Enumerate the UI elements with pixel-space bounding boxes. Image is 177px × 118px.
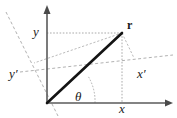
theta-arc — [88, 76, 95, 103]
theta-angle-label: θ — [75, 90, 81, 103]
x-axis-arrowhead — [165, 100, 173, 107]
r-to-xprime-projection-line — [122, 33, 134, 58]
y-axis-label: y — [33, 25, 39, 38]
y-prime-axis-label: y′ — [9, 67, 18, 80]
x-axis-label: x — [119, 102, 125, 115]
coordinate-rotation-figure: y y′ x′ x r θ — [0, 0, 177, 118]
x-prime-axis-label: x′ — [137, 67, 146, 80]
vector-r-label: r — [127, 19, 132, 31]
y-axis-arrowhead — [44, 5, 51, 14]
diagram-canvas — [0, 0, 177, 118]
